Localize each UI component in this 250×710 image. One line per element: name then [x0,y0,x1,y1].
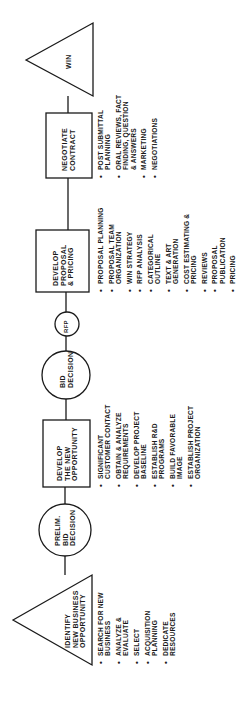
develop-opportunity-activities-list: SIGNIFICANT CUSTOMER CONTACT OBTAIN & AN… [97,405,205,487]
identify-activities-list: SEARCH FOR NEW BUSINESS ANALYZE & EVALUA… [97,592,180,664]
negotiate-activities-list: POST SUBMITTAL PLANNING ORAL REVIEWS, FA… [97,95,162,178]
list-item: RFP ANALYSIS [136,207,143,292]
list-item: SELECT [133,592,140,664]
list-item: ORAL REVIEWS, FACT FINDING, QUESTION & A… [115,95,137,178]
list-item: ANALYZE & EVALUATE [115,592,130,664]
list-item: SEARCH FOR NEW BUSINESS [97,592,112,664]
negotiate-label: NEGOTIATE CONTRACT [61,128,76,171]
list-item: POST SUBMITTAL PLANNING [97,95,112,178]
list-item: MARKETING [140,95,147,178]
list-item: PROPOSAL TEAM ORGANIZATION [108,207,123,292]
list-item: COST ESTIMATING & PRICING [183,207,198,292]
win-triangle [26,23,93,96]
identify-label: IDENTIFY NEW BUSINESS OPPORTUNITY [64,590,87,648]
rfp-label: RFP [63,320,71,333]
list-item: ACQUISITION PLANNING [144,592,159,664]
list-item: PROPOSAL PUBLICATION [211,207,226,292]
list-item: ESTABLISH PROJECT ORGANIZATION [187,405,202,487]
prelim-label: PRELIM. BID DECISION [54,510,77,546]
develop-proposal-label: DEVELOP PROPOSAL & PRICING [52,244,75,286]
develop-proposal-activities-list: PROPOSAL PLANNING PROPOSAL TEAM ORGANIZA… [97,207,240,292]
bid-decision-label: BID DECISION [59,352,74,388]
list-item: OBTAIN & ANALYZE REQUIREMENTS [115,405,130,487]
list-item: DEVELOP PROJECT BASELINE [133,405,148,487]
list-item: WIN STRATEGY [126,207,133,292]
list-item: SIGNIFICANT CUSTOMER CONTACT [97,405,112,487]
business-development-flow-diagram: IDENTIFY NEW BUSINESS OPPORTUNITY PRELIM… [0,0,250,710]
list-item: BUILD FAVORABLE IMAGE [169,405,184,487]
list-item: DEDICATE RESOURCES [162,592,177,664]
list-item: PRICING [229,207,236,292]
list-item: NEGOTIATIONS [151,95,158,178]
list-item: REVIEWS [201,207,208,292]
develop-opportunity-label: DEVELOP THE NEW OPPORTUNITY [56,427,79,481]
list-item: PROPOSAL PLANNING [97,207,104,292]
list-item: CATEGORICAL OUTLINE [147,207,162,292]
list-item: TEXT & ART GENERATION [165,207,180,292]
win-label: WIN [65,54,73,69]
list-item: ESTABLISH R&D PROGRAMS [151,405,166,487]
